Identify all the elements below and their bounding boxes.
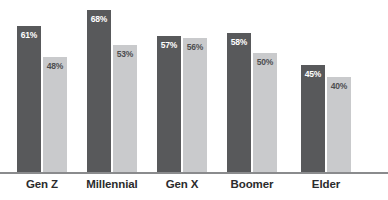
bar-value-label: 58% [227, 38, 251, 47]
bar-boomer-series-2[interactable]: 50% [253, 53, 277, 172]
bar-gen-x-series-1[interactable]: 57% [157, 36, 181, 172]
bar-value-label: 45% [301, 70, 325, 79]
x-axis-baseline [0, 172, 388, 174]
bar-gen-z-series-2[interactable]: 48% [43, 57, 67, 172]
x-axis-labels: Gen Z Millennial Gen X Boomer Elder [0, 176, 388, 200]
bar-value-label: 50% [253, 58, 277, 67]
bar-value-label: 68% [87, 15, 111, 24]
bar-value-label: 40% [327, 82, 351, 91]
bar-gen-x-series-2[interactable]: 56% [183, 38, 207, 172]
bar-elder-series-1[interactable]: 45% [301, 65, 325, 173]
bar-boomer-series-1[interactable]: 58% [227, 33, 251, 172]
bar-value-label: 56% [183, 43, 207, 52]
bar-elder-series-2[interactable]: 40% [327, 77, 351, 172]
bar-value-label: 48% [43, 62, 67, 71]
x-axis-label-boomer: Boomer [210, 178, 294, 190]
plot-area: 61% 48% 68% 53% 57% 56% 58% [0, 0, 388, 172]
bar-chart: 61% 48% 68% 53% 57% 56% 58% [0, 0, 388, 200]
bar-millennial-series-1[interactable]: 68% [87, 10, 111, 172]
x-axis-label-elder: Elder [284, 178, 368, 190]
bar-gen-z-series-1[interactable]: 61% [17, 26, 41, 172]
bar-value-label: 61% [17, 31, 41, 40]
bar-value-label: 57% [157, 41, 181, 50]
bar-value-label: 53% [113, 50, 137, 59]
bar-millennial-series-2[interactable]: 53% [113, 45, 137, 172]
